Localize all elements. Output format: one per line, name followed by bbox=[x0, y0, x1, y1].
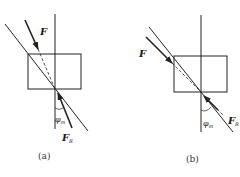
angle-arc bbox=[201, 107, 211, 111]
cone-boundary-line bbox=[5, 24, 88, 131]
force-label: F bbox=[39, 26, 48, 37]
reaction-label: FR bbox=[61, 132, 73, 144]
force-arrow bbox=[146, 37, 172, 63]
reaction-force-arrow bbox=[204, 96, 218, 110]
reaction-label: FR bbox=[227, 115, 239, 127]
panel-a: F φm FR (a) bbox=[5, 14, 88, 161]
force-line-dashed bbox=[38, 49, 55, 89]
angle-arc bbox=[55, 108, 63, 110]
cone-boundary-line bbox=[149, 27, 233, 132]
force-arrow bbox=[25, 20, 38, 49]
panel-b: F φm FR (b) bbox=[138, 15, 239, 164]
angle-label: φm bbox=[55, 115, 66, 125]
force-line-dashed bbox=[172, 63, 201, 92]
angle-label: φm bbox=[203, 119, 214, 129]
caption-b: (b) bbox=[186, 154, 199, 164]
caption-a: (a) bbox=[38, 151, 50, 161]
force-label: F bbox=[138, 48, 147, 59]
friction-cone-diagram: F φm FR (a) F φm FR (b) bbox=[0, 0, 240, 177]
